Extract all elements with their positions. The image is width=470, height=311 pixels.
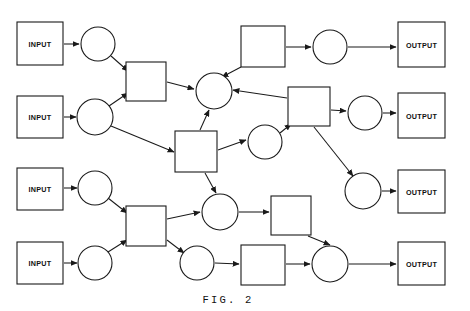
node-sbot[interactable]	[241, 245, 285, 285]
node-rect-stop[interactable]	[241, 26, 285, 67]
node-cbot[interactable]	[180, 246, 214, 280]
node-circle-cr3[interactable]	[345, 173, 381, 209]
node-label-input2: INPUT	[29, 113, 52, 122]
node-rect-smid[interactable]	[175, 131, 217, 172]
node-rect-s1[interactable]	[126, 62, 166, 101]
edge-s2-to-cbot	[167, 240, 184, 253]
node-cmid[interactable]	[248, 125, 282, 159]
node-cr3[interactable]	[345, 173, 381, 209]
node-label-input1: INPUT	[29, 40, 52, 49]
node-cr[interactable]	[348, 96, 382, 130]
node-output3[interactable]: OUTPUT	[398, 170, 445, 213]
edge-smid-to-cmid	[218, 140, 246, 150]
edge-stop-to-chub	[222, 67, 241, 77]
edge-c4-to-s2	[108, 240, 127, 252]
edge-smid-to-chub	[200, 110, 209, 130]
node-label-output3: OUTPUT	[406, 188, 437, 197]
node-s2[interactable]	[126, 206, 166, 246]
edges-layer	[64, 44, 396, 264]
node-circle-clow[interactable]	[202, 194, 238, 230]
figure-container: INPUTINPUTINPUTINPUTOUTPUTOUTPUTOUTPUTOU…	[0, 0, 470, 311]
node-stop[interactable]	[241, 26, 285, 67]
node-sr[interactable]	[288, 87, 330, 126]
node-label-input3: INPUT	[29, 185, 52, 194]
block-diagram: INPUTINPUTINPUTINPUTOUTPUTOUTPUTOUTPUTOU…	[0, 0, 470, 311]
node-c3[interactable]	[78, 171, 112, 205]
node-circle-c1[interactable]	[81, 27, 115, 61]
node-circle-c4[interactable]	[78, 246, 112, 280]
node-c4[interactable]	[78, 246, 112, 280]
node-input3[interactable]: INPUT	[17, 168, 63, 210]
node-ctop[interactable]	[313, 30, 347, 64]
node-circle-cbot[interactable]	[180, 246, 214, 280]
node-cbr[interactable]	[312, 246, 348, 282]
node-label-output4: OUTPUT	[406, 260, 437, 269]
node-label-output1: OUTPUT	[406, 41, 437, 50]
edge-sr-to-cr	[331, 110, 346, 111]
edge-slow-to-cbr	[308, 236, 330, 245]
edge-c2-to-smid	[111, 126, 174, 152]
node-rect-sbot[interactable]	[241, 245, 285, 285]
node-output2[interactable]: OUTPUT	[398, 93, 445, 138]
nodes-layer: INPUTINPUTINPUTINPUTOUTPUTOUTPUTOUTPUTOU…	[17, 22, 445, 285]
edge-smid-to-clow	[205, 173, 216, 193]
node-input4[interactable]: INPUT	[17, 242, 63, 284]
node-circle-c2[interactable]	[77, 99, 113, 135]
node-c2[interactable]	[77, 99, 113, 135]
node-rect-s2[interactable]	[126, 206, 166, 246]
node-s1[interactable]	[126, 62, 166, 101]
edge-c3-to-s2	[108, 198, 127, 213]
node-rect-sr[interactable]	[288, 87, 330, 126]
node-circle-cr[interactable]	[348, 96, 382, 130]
node-rect-slow[interactable]	[271, 196, 311, 235]
node-label-input4: INPUT	[29, 259, 52, 268]
node-output4[interactable]: OUTPUT	[398, 242, 445, 285]
edge-s2-to-clow	[167, 212, 200, 219]
node-clow[interactable]	[202, 194, 238, 230]
node-circle-c3[interactable]	[78, 171, 112, 205]
node-input1[interactable]: INPUT	[17, 22, 63, 65]
figure-caption: FIG. 2	[202, 294, 253, 306]
node-c1[interactable]	[81, 27, 115, 61]
node-slow[interactable]	[271, 196, 311, 235]
node-label-output2: OUTPUT	[406, 112, 437, 121]
node-circle-cmid[interactable]	[248, 125, 282, 159]
node-smid[interactable]	[175, 131, 217, 172]
node-output1[interactable]: OUTPUT	[398, 22, 445, 67]
node-circle-ctop[interactable]	[313, 30, 347, 64]
node-circle-chub[interactable]	[196, 73, 232, 109]
edge-s1-to-chub	[167, 82, 194, 89]
edge-c1-to-s1	[111, 56, 128, 71]
edge-cbot-to-sbot	[215, 263, 239, 264]
edge-c2-to-s1	[109, 93, 128, 106]
node-chub[interactable]	[196, 73, 232, 109]
edge-sr-to-cr3	[314, 127, 353, 176]
node-input2[interactable]: INPUT	[17, 96, 63, 138]
edge-sr-to-chub	[233, 90, 287, 98]
node-circle-cbr[interactable]	[312, 246, 348, 282]
